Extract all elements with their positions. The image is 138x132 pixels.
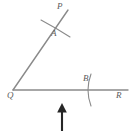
geometry-canvas [0,0,138,132]
point-label-r: R [116,91,122,100]
point-label-p: P [57,2,63,11]
ray-qp-line [13,10,68,90]
point-label-b: B [83,74,89,83]
point-label-a: A [51,29,57,38]
up-arrow-icon [57,103,67,131]
geometry-figure: P A Q B R [0,0,138,132]
point-label-q: Q [7,91,14,100]
